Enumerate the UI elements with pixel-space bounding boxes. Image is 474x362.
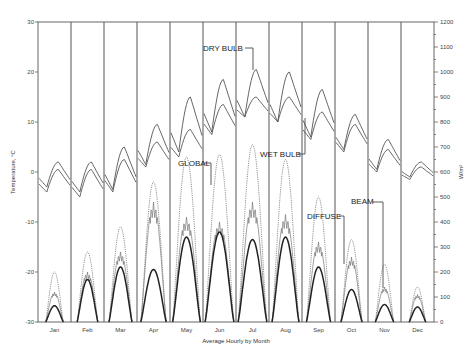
- y2-tick-label: 200: [440, 269, 451, 275]
- dry-bulb-line: [270, 72, 301, 122]
- y2-tick-label: 700: [440, 144, 451, 150]
- y2-tick-label: 600: [440, 169, 451, 175]
- month-label: Mar: [115, 327, 125, 333]
- dry-bulb-line: [138, 125, 169, 165]
- diffuse-radiation-line: [306, 242, 330, 322]
- month-label: Oct: [347, 327, 357, 333]
- month-label: Dec: [412, 327, 423, 333]
- month-label: Feb: [82, 327, 93, 333]
- global-radiation-line: [272, 160, 299, 323]
- radiation-axis: 1200110010009008007006005004003002001000: [434, 19, 454, 325]
- y-tick-label: 10: [27, 119, 34, 125]
- y2-tick-label: 500: [440, 194, 451, 200]
- month-label: Jun: [215, 327, 225, 333]
- y2-axis-title: W/m²: [458, 165, 464, 179]
- y2-tick-label: 300: [440, 244, 451, 250]
- y-tick-label: 0: [31, 169, 35, 175]
- month-label: Apr: [149, 327, 158, 333]
- wet-bulb-line: [204, 105, 235, 135]
- wet-bulb-label: WET BULB: [260, 150, 301, 159]
- y2-tick-label: 1000: [440, 69, 454, 75]
- annotation-wet-bulb: WET BULB: [260, 118, 305, 159]
- dry-bulb-line: [402, 162, 433, 177]
- climate-chart: 3020100-10-20-30 12001100100090080070060…: [0, 0, 474, 362]
- y-tick-label: -10: [25, 219, 34, 225]
- global-radiation-line: [109, 227, 132, 322]
- global-radiation-line: [173, 157, 201, 322]
- dry-bulb-line: [39, 162, 70, 187]
- global-radiation-line: [205, 155, 234, 323]
- beam-radiation-line: [46, 306, 64, 322]
- annotation-beam: BEAM: [351, 197, 383, 288]
- dry-bulb-line: [237, 70, 268, 118]
- dry-bulb-line: [336, 115, 367, 150]
- global-label: GLOBAL: [178, 159, 211, 168]
- y-tick-label: -30: [25, 319, 34, 325]
- y2-tick-label: 400: [440, 219, 451, 225]
- dry-bulb-label: DRY BULB: [203, 44, 243, 53]
- diffuse-radiation-line: [272, 215, 299, 323]
- dry-bulb-line: [204, 80, 235, 133]
- y-tick-label: 20: [27, 69, 34, 75]
- wet-bulb-line: [72, 170, 103, 198]
- wet-bulb-line: [303, 112, 334, 140]
- diffuse-radiation-line: [205, 222, 234, 322]
- y2-tick-label: 1100: [440, 44, 454, 50]
- dry-bulb-line: [303, 90, 334, 138]
- y2-tick-label: 0: [440, 319, 444, 325]
- wet-bulb-line: [138, 142, 169, 167]
- y-axis-title: Temperature, °C: [10, 149, 16, 193]
- y2-tick-label: 900: [440, 94, 451, 100]
- month-label: May: [181, 327, 192, 333]
- month-label: Nov: [379, 327, 390, 333]
- y2-tick-label: 1200: [440, 19, 454, 25]
- month-label: Aug: [280, 327, 291, 333]
- month-labels: JanFebMarAprMayJunJulAugSepOctNovDec: [50, 327, 423, 333]
- dry-bulb-line: [72, 162, 103, 192]
- annotation-dry-bulb: DRY BULB: [203, 44, 253, 70]
- diffuse-label: DIFFUSE: [307, 212, 341, 221]
- month-label: Sep: [313, 327, 324, 333]
- x-axis-title: Average Hourly by Month: [202, 338, 270, 344]
- dry-bulb-line: [369, 140, 400, 170]
- diffuse-radiation-line: [173, 217, 201, 322]
- global-radiation-line: [77, 252, 98, 322]
- y2-tick-label: 800: [440, 119, 451, 125]
- month-dividers: [71, 22, 401, 322]
- beam-label: BEAM: [351, 197, 374, 206]
- month-label: Jul: [249, 327, 257, 333]
- dry-bulb-line: [105, 147, 136, 190]
- y2-tick-label: 100: [440, 294, 451, 300]
- month-label: Jan: [50, 327, 60, 333]
- y-tick-label: -20: [25, 269, 34, 275]
- beam-radiation-line: [205, 232, 234, 322]
- diffuse-radiation-line: [238, 202, 267, 322]
- wet-bulb-line: [270, 97, 301, 122]
- dry-bulb-line: [171, 97, 202, 152]
- temperature-axis: 3020100-10-20-30: [25, 19, 38, 325]
- wet-bulb-line: [237, 97, 268, 117]
- y-tick-label: 30: [27, 19, 34, 25]
